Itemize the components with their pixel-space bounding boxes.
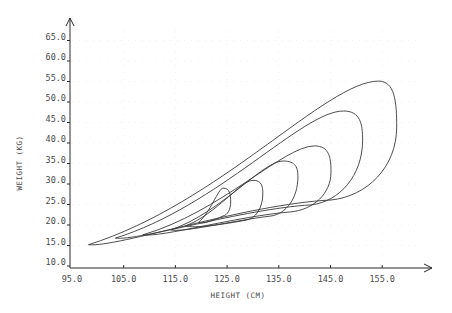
y-tick-label: 40.0 [46, 134, 66, 144]
x-tick-label: 95.0 [62, 274, 82, 284]
y-tick-label: 45.0 [46, 114, 66, 124]
x-tick-label: 145.0 [318, 274, 344, 284]
y-tick-label: 55.0 [46, 73, 66, 83]
y-tick-label: 15.0 [46, 237, 66, 247]
y-tick-label: 50.0 [46, 93, 66, 103]
x-tick-label: 155.0 [369, 274, 395, 284]
x-tick-label: 135.0 [266, 274, 292, 284]
grid-lines [72, 30, 420, 266]
y-tick-label: 35.0 [46, 155, 66, 165]
y-tick-label: 20.0 [46, 216, 66, 226]
y-tick-label: 25.0 [46, 196, 66, 206]
y-tick-label: 10.0 [46, 257, 66, 267]
axes [66, 18, 432, 272]
y-axis-label: WEIGHT (KG) [15, 135, 24, 190]
chart-canvas: 95.0105.0115.0125.0135.0145.0155.0 10.01… [0, 0, 452, 313]
contour-curves [89, 81, 397, 245]
x-tick-label: 115.0 [163, 274, 189, 284]
y-tick-label: 65.0 [46, 32, 66, 42]
y-tick-label: 30.0 [46, 175, 66, 185]
y-axis-ticks: 10.015.020.025.030.035.040.045.050.055.0… [46, 32, 70, 268]
x-tick-label: 105.0 [111, 274, 137, 284]
x-tick-label: 125.0 [214, 274, 240, 284]
x-axis-label: HEIGHT (CM) [210, 291, 265, 300]
y-tick-label: 60.0 [46, 52, 66, 62]
contour-curve-contour-5 [186, 180, 263, 226]
